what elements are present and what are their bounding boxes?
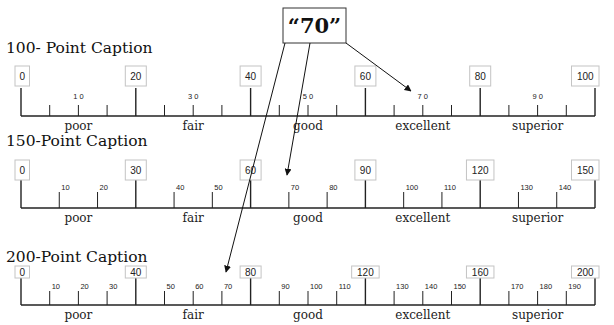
major-label: 120: [472, 165, 489, 176]
major-label: 90: [360, 165, 372, 176]
arrow-to-150-scale: [287, 43, 310, 175]
category-poor: poor: [64, 211, 92, 225]
minor-label: 130: [520, 183, 533, 192]
minor-label: 90: [281, 282, 289, 291]
minor-label: 20: [80, 282, 88, 291]
category-fair: fair: [183, 308, 204, 322]
category-good: good: [293, 308, 323, 322]
major-label: 120: [357, 267, 374, 278]
major-label: 80: [245, 267, 257, 278]
category-superior: superior: [512, 119, 563, 133]
minor-label: 70: [291, 183, 299, 192]
category-excellent: excellent: [395, 119, 450, 133]
minor-label: 1 0: [73, 92, 83, 101]
minor-label: 5 0: [303, 92, 313, 101]
scale-200: 200-Point Caption10203050607090100110130…: [6, 248, 599, 322]
scale-title: 150-Point Caption: [6, 132, 148, 150]
category-excellent: excellent: [395, 308, 450, 322]
minor-label: 140: [425, 282, 438, 291]
category-good: good: [293, 119, 323, 133]
major-label: 0: [19, 71, 25, 82]
major-label: 60: [360, 71, 372, 82]
minor-label: 130: [396, 282, 409, 291]
scale-150: 150-Point Caption10204050708010011013014…: [6, 132, 599, 225]
minor-label: 170: [511, 282, 524, 291]
minor-label: 190: [568, 282, 581, 291]
major-label: 200: [577, 267, 594, 278]
major-label: 0: [19, 267, 25, 278]
scale-title: 200-Point Caption: [6, 248, 148, 266]
major-label: 160: [472, 267, 489, 278]
category-poor: poor: [64, 119, 92, 133]
minor-label: 100: [310, 282, 323, 291]
minor-label: 50: [167, 282, 175, 291]
category-excellent: excellent: [395, 211, 450, 225]
category-superior: superior: [512, 211, 563, 225]
minor-label: 9 0: [532, 92, 542, 101]
major-label: 40: [245, 71, 257, 82]
minor-label: 30: [109, 282, 117, 291]
scale-title: 100- Point Caption: [6, 39, 153, 57]
callout-label: “70”: [288, 13, 341, 38]
minor-label: 140: [559, 183, 572, 192]
minor-label: 7 0: [418, 92, 428, 101]
major-label: 30: [130, 165, 142, 176]
minor-label: 80: [329, 183, 337, 192]
category-poor: poor: [64, 308, 92, 322]
minor-label: 70: [224, 282, 232, 291]
major-label: 20: [130, 71, 142, 82]
major-label: 80: [475, 71, 487, 82]
minor-label: 20: [100, 183, 108, 192]
major-label: 40: [130, 267, 142, 278]
rating-scale-diagram: 100- Point Caption1 03 05 07 09 00204060…: [0, 0, 614, 325]
minor-label: 180: [540, 282, 553, 291]
category-fair: fair: [183, 119, 204, 133]
callout-70: “70”: [226, 8, 411, 272]
major-label: 0: [19, 165, 25, 176]
minor-label: 40: [176, 183, 184, 192]
minor-label: 10: [61, 183, 69, 192]
category-good: good: [293, 211, 323, 225]
minor-label: 150: [454, 282, 467, 291]
minor-label: 110: [444, 183, 456, 192]
minor-label: 100: [406, 183, 419, 192]
minor-label: 3 0: [188, 92, 198, 101]
minor-label: 50: [214, 183, 222, 192]
category-fair: fair: [183, 211, 204, 225]
category-superior: superior: [512, 308, 563, 322]
minor-label: 10: [52, 282, 60, 291]
major-label: 100: [577, 71, 594, 82]
minor-label: 110: [339, 282, 351, 291]
major-label: 150: [577, 165, 594, 176]
minor-label: 60: [195, 282, 203, 291]
diagram-canvas: 100- Point Caption1 03 05 07 09 00204060…: [0, 0, 614, 325]
